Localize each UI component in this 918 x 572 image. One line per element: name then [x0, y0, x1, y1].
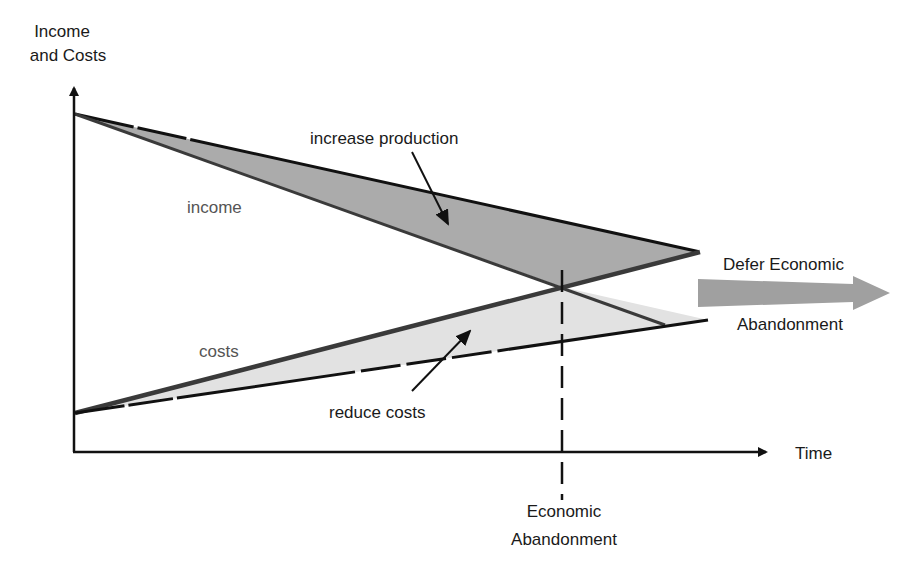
y-axis-label-line1: Income [34, 22, 90, 41]
defer-label-line1: Defer Economic [723, 255, 844, 274]
x-axis-label: Time [795, 444, 832, 463]
defer-label-line2: Abandonment [737, 315, 843, 334]
economic-abandonment-label-line2: Abandonment [511, 530, 617, 549]
income-series-label: income [187, 198, 242, 217]
reduce-costs-label: reduce costs [329, 403, 425, 422]
economic-abandonment-diagram: Income and Costs Time income costs incre… [0, 0, 918, 572]
defer-abandonment-arrow [698, 276, 890, 310]
increase-production-label: increase production [310, 129, 458, 148]
y-axis-label-line2: and Costs [30, 46, 107, 65]
costs-series-label: costs [199, 342, 239, 361]
economic-abandonment-label-line1: Economic [527, 502, 602, 521]
